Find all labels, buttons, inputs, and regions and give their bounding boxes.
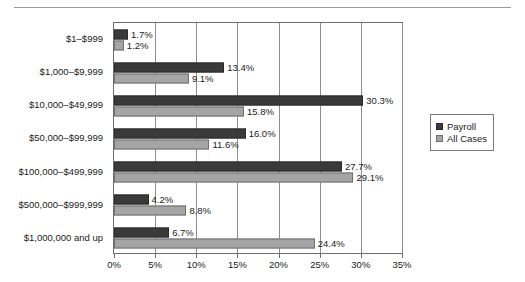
- bar-all-cases: [114, 173, 353, 183]
- bar-value-label: 15.8%: [244, 106, 274, 116]
- bar-value-label: 9.1%: [189, 73, 214, 83]
- x-axis: 0%5%10%15%20%25%30%35%: [113, 254, 403, 276]
- bar-payroll: [114, 95, 363, 105]
- bar-group: 6.7%24.4%: [114, 222, 402, 255]
- bar-group: 30.3%15.8%: [114, 89, 402, 122]
- legend-swatch-payroll: [436, 123, 443, 130]
- x-axis-tick: [402, 254, 403, 258]
- bar-value-label: 1.2%: [124, 40, 149, 50]
- legend-item: All Cases: [436, 133, 487, 144]
- y-axis-tick-label: $50,000–$99,999: [0, 121, 109, 154]
- x-axis-tick: [155, 254, 156, 258]
- bar-rows: 1.7%1.2%13.4%9.1%30.3%15.8%16.0%11.6%27.…: [114, 23, 402, 253]
- y-axis-tick-label: $10,000–$49,999: [0, 88, 109, 121]
- x-axis-tick: [361, 254, 362, 258]
- bar-group: 13.4%9.1%: [114, 56, 402, 89]
- bar-value-label: 11.6%: [209, 140, 238, 150]
- x-axis-tick: [279, 254, 280, 258]
- x-axis-tick-label: 30%: [351, 259, 370, 270]
- chart-legend: PayrollAll Cases: [430, 114, 494, 151]
- bar-value-label: 4.2%: [149, 195, 174, 205]
- bar-all-cases: [114, 73, 189, 83]
- x-axis-tick-label: 0%: [107, 259, 121, 270]
- x-axis-tick-label: 5%: [148, 259, 162, 270]
- bar-value-label: 8.8%: [186, 206, 211, 216]
- bar-value-label: 30.3%: [363, 95, 393, 105]
- x-axis-tick: [114, 254, 115, 258]
- plot-area: 1.7%1.2%13.4%9.1%30.3%15.8%16.0%11.6%27.…: [113, 22, 403, 254]
- y-axis-category-labels: $1–$999$1,000–$9,999$10,000–$49,999$50,0…: [0, 22, 109, 254]
- y-axis-tick-label: $1–$999: [0, 22, 109, 55]
- y-axis-tick-label: $100,000–$499,999: [0, 155, 109, 188]
- x-axis-tick: [196, 254, 197, 258]
- bar-group: 1.7%1.2%: [114, 23, 402, 56]
- bar-all-cases: [114, 106, 244, 116]
- legend-item: Payroll: [436, 121, 487, 132]
- y-axis-tick-label: $1,000–$9,999: [0, 55, 109, 88]
- x-axis-tick-label: 10%: [187, 259, 206, 270]
- bar-payroll: [114, 29, 128, 39]
- bar-value-label: 29.1%: [353, 173, 383, 183]
- bar-value-label: 6.7%: [169, 228, 194, 238]
- bar-payroll: [114, 128, 246, 138]
- bar-value-label: 24.4%: [315, 239, 345, 249]
- bar-all-cases: [114, 239, 315, 249]
- bar-group: 4.2%8.8%: [114, 189, 402, 222]
- bar-group: 27.7%29.1%: [114, 156, 402, 189]
- x-axis-tick-label: 35%: [392, 259, 411, 270]
- bar-value-label: 16.0%: [246, 129, 276, 139]
- y-axis-tick-label: $1,000,000 and up: [0, 221, 109, 254]
- bar-all-cases: [114, 139, 209, 149]
- bar-payroll: [114, 228, 169, 238]
- bar-payroll: [114, 62, 224, 72]
- horizontal-bar-chart: $1–$999$1,000–$9,999$10,000–$49,999$50,0…: [0, 0, 525, 282]
- legend-label: All Cases: [447, 133, 487, 144]
- bar-value-label: 1.7%: [128, 29, 153, 38]
- bar-all-cases: [114, 40, 124, 50]
- bar-group: 16.0%11.6%: [114, 122, 402, 155]
- bar-value-label: 27.7%: [342, 162, 372, 172]
- x-axis-tick-label: 20%: [269, 259, 288, 270]
- bar-value-label: 13.4%: [224, 62, 254, 71]
- bar-payroll: [114, 195, 149, 205]
- x-axis-tick-label: 25%: [310, 259, 329, 270]
- bar-payroll: [114, 162, 342, 172]
- x-axis-tick: [320, 254, 321, 258]
- bar-all-cases: [114, 206, 186, 216]
- legend-label: Payroll: [447, 121, 476, 132]
- y-axis-tick-label: $500,000–$999,999: [0, 188, 109, 221]
- gridline: [402, 23, 403, 253]
- legend-swatch-allcases: [436, 135, 443, 142]
- x-axis-tick-label: 15%: [228, 259, 247, 270]
- x-axis-tick: [237, 254, 238, 258]
